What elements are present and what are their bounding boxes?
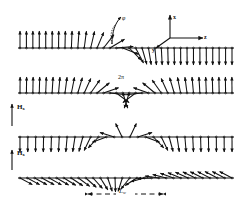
field-label-row4-sub: x — [22, 152, 24, 157]
field-label-row3-sub: x — [22, 106, 24, 111]
field-label-row4: Hx — [17, 150, 25, 157]
coordinate-axes — [156, 15, 203, 48]
domain-wall-figure — [0, 0, 247, 207]
two-pi-label: 2π — [118, 74, 124, 80]
spin-row-360-wall — [18, 77, 234, 108]
spin-row-180-wall — [18, 31, 234, 65]
wall-width-label-sub: w — [123, 190, 126, 195]
spin-row-field-Hx-weak — [18, 123, 234, 152]
axis-label-y: y — [152, 47, 155, 53]
phi-label: φ — [122, 15, 125, 21]
wall-width-label: Lw — [119, 188, 126, 195]
phi-angle-marker — [111, 17, 121, 44]
axis-label-z: z — [204, 34, 207, 40]
spin-row-field-Hx-strong — [18, 171, 234, 192]
field-label-row3: Hx — [17, 104, 25, 111]
spin-rows-group — [18, 31, 234, 192]
axis-label-x: x — [173, 14, 176, 20]
